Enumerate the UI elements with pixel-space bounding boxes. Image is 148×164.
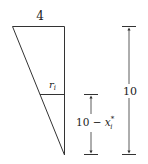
triangle-diagram: 4 ri 10 − x*i 10 — [0, 0, 148, 164]
right-triangle — [13, 27, 65, 156]
triangle-hypotenuse — [13, 27, 65, 156]
slice-height-label: 10 − x*i — [76, 115, 115, 131]
top-width-label: 4 — [36, 9, 44, 23]
total-height-label: 10 — [123, 85, 137, 98]
radius-label: ri — [49, 79, 56, 92]
